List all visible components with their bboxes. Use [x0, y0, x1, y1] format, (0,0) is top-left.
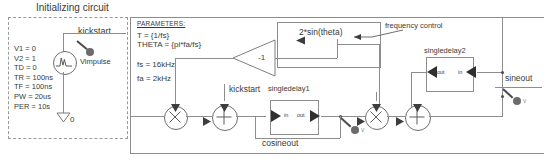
wire-sum1-to-sd1	[236, 116, 266, 117]
singledelay1-port-in-icon	[271, 110, 282, 122]
singledelay2-port-out-icon	[427, 66, 438, 78]
gain-value-label: -1	[258, 54, 265, 62]
junction-sineout-probe	[501, 95, 504, 98]
wire-source-top-right	[63, 33, 126, 34]
frame-divider-top	[130, 17, 544, 18]
arrow-into-sum2	[396, 112, 405, 130]
ground-symbol	[56, 112, 71, 124]
gain-amplifier-triangle[interactable]	[232, 39, 276, 77]
wire-gain-output	[275, 58, 337, 59]
wire-cosine-feedback-left	[255, 138, 340, 139]
spice-param-tf: TF = 100ns	[14, 82, 53, 92]
wire-source-bottom	[63, 72, 64, 113]
spice-parameter-list: V1 = 0 V2 = 1 TD = 0 TR = 100ns TF = 100…	[14, 44, 53, 111]
wire-source-top	[63, 33, 64, 52]
wire-sd2-out	[411, 72, 427, 73]
arrow-into-sum1	[203, 112, 212, 130]
sineout-probe-marker: V	[523, 98, 526, 104]
singledelay1-title: singledelay1	[268, 85, 310, 93]
wire-sd2-in	[477, 72, 502, 73]
frame-divider-left	[130, 17, 131, 154]
singledelay1-port-in-label: in	[284, 113, 288, 119]
sine-expression-arrow	[296, 36, 310, 45]
wire-cosine-feedback-up	[255, 116, 256, 138]
parameter-expr-theta: THETA = {pi*fa/fs}	[137, 40, 201, 49]
wire-sinebox-right	[337, 44, 379, 45]
singledelay1-port-out-label: out	[297, 113, 305, 119]
vimpulse-label: Vimpulse	[80, 58, 111, 66]
wire-gain-input	[175, 58, 233, 59]
wire-sineout-underline	[495, 87, 542, 88]
spice-param-per: PER = 10s	[14, 102, 53, 112]
singledelay1-port-out-icon	[310, 110, 321, 122]
arrow-kickstart-into-sum1	[220, 99, 229, 117]
wire-gain-output-up	[337, 39, 338, 58]
wire-sum2-to-rail	[429, 116, 503, 117]
sineout-net-label: sineout	[505, 74, 532, 83]
singledelay2-title: singledelay2	[424, 47, 466, 55]
parameters-heading: PARAMETERS:	[137, 21, 185, 28]
page-title: Initializing circuit	[36, 3, 109, 13]
spice-param-v1: V1 = 0	[14, 44, 53, 54]
wire-frame-to-mul1	[130, 116, 164, 117]
wire-sineout-rail	[502, 17, 503, 116]
parameter-value-fa: fa = 2kHz	[137, 74, 171, 83]
singledelay2-port-in-icon	[466, 66, 477, 78]
spice-param-v2: V2 = 1	[14, 54, 53, 64]
spice-param-td: TD = 0	[14, 63, 53, 73]
singledelay2-port-out-label: out	[437, 70, 445, 76]
arrow-into-mul1-top	[171, 99, 180, 117]
arrow-theta-into-mul2	[372, 99, 381, 117]
cosineout-net-label: cosineout	[262, 139, 298, 148]
parameter-value-fs: fs = 16kHz	[137, 60, 175, 69]
spice-param-pw: PW = 20us	[14, 92, 53, 102]
parameter-expr-t: T = {1/fs}	[137, 31, 169, 40]
kickstart-source-label: kickstart	[78, 27, 111, 36]
frequency-control-leader	[352, 28, 404, 42]
arrow-into-sum2-top	[413, 99, 422, 117]
spice-param-tr: TR = 100ns	[14, 73, 53, 83]
singledelay2-port-in-label: in	[458, 70, 462, 76]
kickstart-mid-label: kickstart	[229, 85, 260, 94]
arrow-into-mul2	[357, 112, 366, 130]
circuit-diagram-canvas: Initializing circuit V1 = 0 V2 = 1 TD = …	[0, 0, 544, 161]
junction-sineout-top	[501, 71, 504, 74]
frame-divider-bottom	[130, 153, 544, 154]
vimpulse-source-symbol[interactable]	[53, 51, 77, 75]
ground-net-label: 0	[70, 116, 74, 124]
